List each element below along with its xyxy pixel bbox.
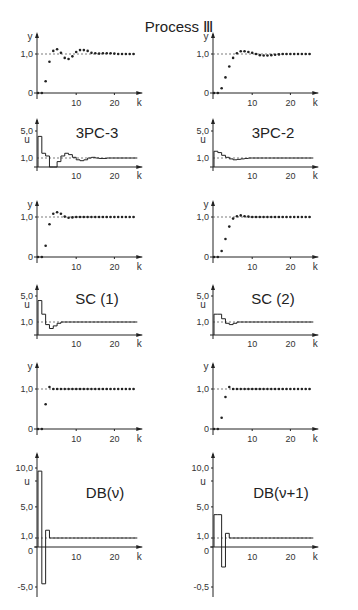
data-point — [281, 53, 284, 56]
data-point — [255, 216, 258, 219]
data-point — [251, 52, 254, 55]
data-point — [262, 54, 265, 57]
data-point — [52, 213, 55, 216]
data-point — [94, 52, 97, 55]
data-point — [259, 54, 262, 57]
x-tick-label: 20 — [109, 434, 119, 444]
data-point — [48, 223, 51, 226]
y-tick-label: 10,0 — [15, 463, 33, 473]
panel-label: DB(ν) — [86, 484, 124, 501]
data-point — [224, 396, 227, 399]
chart-u-sc1: 1,05,0u1020kSC (1) — [20, 284, 142, 349]
data-point — [262, 388, 265, 391]
data-point — [56, 388, 59, 391]
data-point — [71, 388, 74, 391]
y-tick-label: 0 — [28, 252, 33, 262]
y-axis-arrow-icon — [35, 32, 39, 38]
data-point — [79, 216, 82, 219]
data-point — [259, 388, 262, 391]
data-point — [239, 388, 242, 391]
data-point — [83, 388, 86, 391]
data-point — [105, 388, 108, 391]
data-point — [90, 216, 93, 219]
y-axis-arrow-icon — [211, 200, 215, 206]
data-point — [52, 50, 55, 53]
x-axis-arrow-icon — [312, 545, 318, 549]
data-point — [266, 54, 269, 57]
data-point — [56, 48, 59, 51]
x-tick-label: 10 — [71, 262, 81, 272]
y-tick-label: 5,0 — [20, 502, 33, 512]
control-signal-step — [214, 515, 313, 567]
panel-label: DB(ν+1) — [253, 484, 308, 501]
data-point — [297, 216, 300, 219]
data-point — [60, 388, 63, 391]
x-axis-label: k — [137, 433, 143, 444]
data-point — [121, 53, 124, 56]
x-axis-arrow-icon — [136, 165, 142, 169]
data-point — [52, 388, 55, 391]
chart-y-sc2: 01,01020ky — [196, 199, 318, 272]
y-tick-label: 0 — [204, 88, 209, 98]
data-point — [255, 388, 258, 391]
figure-canvas: 01,01020ky01,01020ky1,05,0u1020k3PC-31,0… — [0, 0, 358, 610]
data-point — [132, 216, 135, 219]
y-tick-label: 1,0 — [196, 153, 209, 163]
data-point — [98, 216, 101, 219]
data-point — [132, 53, 135, 56]
data-point — [236, 388, 239, 391]
chart-y-3pc3: 01,01020ky — [20, 31, 142, 108]
data-point — [247, 388, 250, 391]
data-point — [262, 216, 265, 219]
data-point — [239, 214, 242, 217]
chart-y-3pc2: 01,01020ky — [196, 31, 318, 108]
x-axis-arrow-icon — [312, 427, 318, 431]
data-point — [297, 53, 300, 56]
x-tick-label: 10 — [247, 339, 257, 349]
x-tick-label: 10 — [247, 434, 257, 444]
y-axis-label: u — [200, 299, 206, 310]
x-axis-label: k — [313, 551, 319, 562]
x-axis-label: k — [137, 97, 143, 108]
data-point — [228, 386, 231, 389]
x-tick-label: 20 — [109, 262, 119, 272]
data-point — [266, 216, 269, 219]
data-point — [301, 388, 304, 391]
data-point — [71, 216, 74, 219]
x-tick-label: 20 — [285, 434, 295, 444]
data-point — [251, 216, 254, 219]
data-point — [266, 388, 269, 391]
data-point — [102, 216, 105, 219]
chart-u-db-nu: -5,001,05,010,0u1020kDB(ν) — [15, 452, 142, 597]
data-point — [278, 216, 281, 219]
data-point — [86, 216, 89, 219]
panel-label: SC (2) — [251, 290, 294, 307]
data-point — [308, 216, 311, 219]
data-point — [67, 217, 70, 220]
data-point — [67, 388, 70, 391]
y-axis-arrow-icon — [211, 362, 215, 368]
chart-u-3pc3: 1,05,0u1020k3PC-3 — [20, 118, 142, 181]
data-point — [113, 216, 116, 219]
x-tick-label: 10 — [71, 339, 81, 349]
data-point — [228, 225, 231, 228]
data-point — [109, 216, 112, 219]
x-tick-label: 10 — [71, 171, 81, 181]
y-tick-label: 10,0 — [191, 463, 209, 473]
data-point — [232, 57, 235, 60]
x-axis-label: k — [137, 261, 143, 272]
y-axis-arrow-icon — [35, 200, 39, 206]
data-point — [83, 216, 86, 219]
data-point — [301, 216, 304, 219]
y-axis-arrow-icon — [211, 284, 215, 290]
data-point — [109, 388, 112, 391]
data-point — [255, 53, 258, 56]
data-point — [220, 250, 223, 253]
data-point — [37, 256, 40, 259]
x-axis-label: k — [137, 551, 143, 562]
data-point — [109, 52, 112, 55]
data-point — [63, 388, 66, 391]
x-axis-arrow-icon — [312, 91, 318, 95]
data-point — [105, 216, 108, 219]
data-point — [44, 403, 47, 406]
